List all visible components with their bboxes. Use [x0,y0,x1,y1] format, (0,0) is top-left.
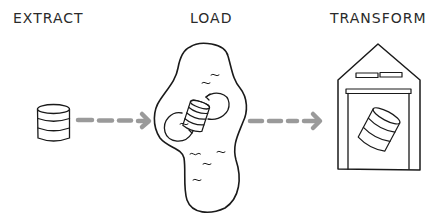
warehouse-door [348,94,409,170]
arrow-load-to-transform [250,114,320,128]
data-lake-icon [154,43,246,212]
warehouse-icon [338,44,420,170]
warehouse-outline [338,44,420,170]
warehouse-door-header [346,89,411,94]
arrow-extract-to-load [78,114,149,127]
warehouse-database-icon [357,105,402,154]
etl-diagram [0,0,444,221]
lake-database-icon [182,99,210,134]
database-icon [38,105,70,142]
